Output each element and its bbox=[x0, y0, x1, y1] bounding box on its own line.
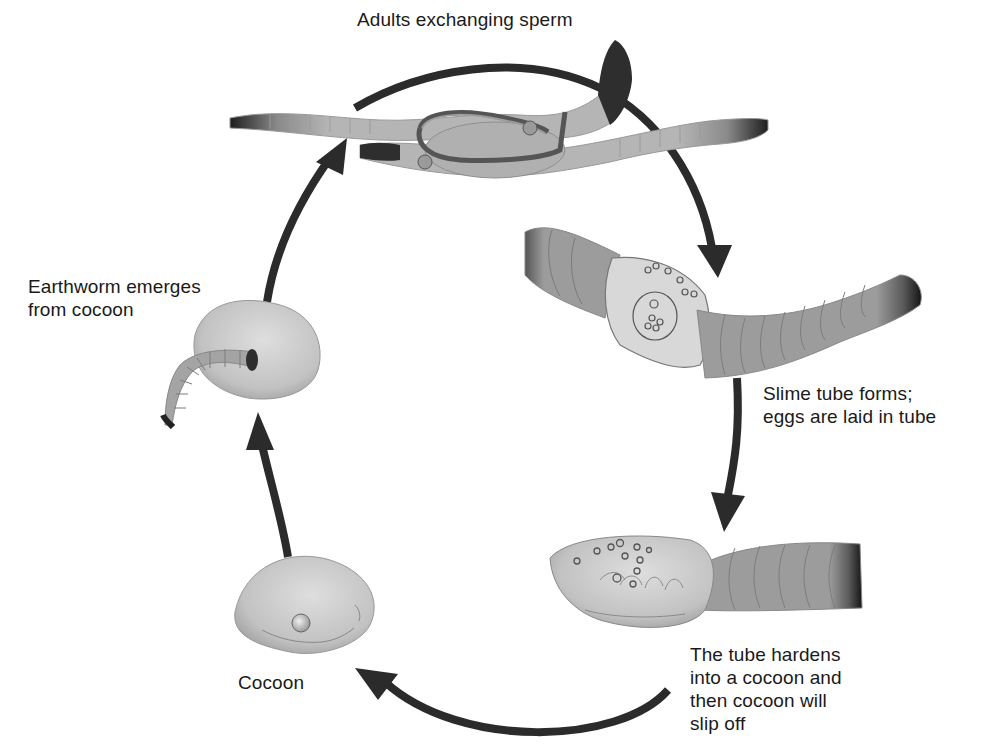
arrow-slime-to-harden bbox=[728, 378, 738, 495]
mating-earthworms-icon bbox=[230, 40, 768, 178]
cocoon-icon bbox=[235, 556, 374, 653]
stage-label-emerges: Earthworm emerges from cocoon bbox=[28, 275, 201, 321]
arrowhead-left-lower bbox=[246, 412, 274, 450]
stage-label-slime-tube: Slime tube forms; eggs are laid in tube bbox=[763, 382, 936, 428]
diagram-artwork bbox=[0, 0, 987, 751]
arrow-harden-to-cocoon bbox=[385, 682, 668, 732]
earthworm-life-cycle-diagram: Adults exchanging sperm Slime tube forms… bbox=[0, 0, 987, 751]
arrow-cocoon-to-emerge bbox=[262, 445, 288, 557]
hardening-cocoon-worm-icon bbox=[550, 536, 862, 627]
stage-label-tube-hardens: The tube hardens into a cocoon and then … bbox=[690, 643, 842, 735]
stage-label-cocoon: Cocoon bbox=[238, 671, 304, 694]
arrowhead-right-bottom bbox=[711, 492, 745, 532]
arrow-emerge-to-adults bbox=[267, 158, 330, 302]
stage-label-adults: Adults exchanging sperm bbox=[357, 8, 573, 31]
arrowhead-right-top bbox=[697, 245, 732, 278]
